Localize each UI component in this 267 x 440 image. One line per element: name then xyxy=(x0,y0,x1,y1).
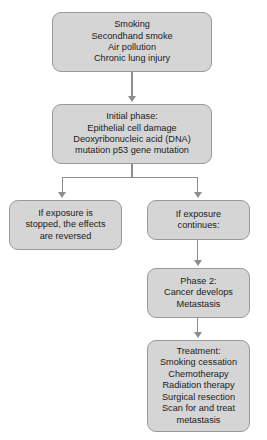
node-phase-two-line-1: Phase 2: xyxy=(180,276,216,287)
node-exposure-stopped-line-1: If exposure is xyxy=(38,208,93,219)
connector-causes-to-initial xyxy=(131,72,132,97)
node-initial-phase-line-2: Epithelial cell damage xyxy=(87,123,176,134)
connector-initial-stem xyxy=(131,164,132,178)
arrowhead-causes-to-initial xyxy=(128,96,136,102)
arrowhead-split-to-stopped xyxy=(58,192,66,198)
node-exposure-stopped: If exposure is stopped, the effects are … xyxy=(9,200,122,250)
node-treatment-line-7: metastasis xyxy=(177,415,221,426)
node-treatment-line-5: Surgical resection xyxy=(162,392,235,403)
node-initial-phase: Initial phase: Epithelial cell damage De… xyxy=(52,104,212,164)
node-causes-line-3: Air pollution xyxy=(108,42,156,53)
node-treatment-line-1: Treatment: xyxy=(176,346,220,357)
connector-split-to-continues xyxy=(197,177,198,193)
node-causes-line-1: Smoking xyxy=(114,19,150,30)
node-initial-phase-line-1: Initial phase: xyxy=(106,111,158,122)
node-causes-line-2: Secondhand smoke xyxy=(91,31,172,42)
node-exposure-continues-line-2: continues: xyxy=(178,220,220,231)
node-phase-two-line-2: Cancer develops xyxy=(164,287,233,298)
node-initial-phase-line-3: Deoxyribonucleic acid (DNA) xyxy=(73,134,190,145)
node-treatment: Treatment: Smoking cessation Chemotherap… xyxy=(147,340,250,432)
connector-phase2-to-treatment xyxy=(197,318,198,333)
node-exposure-continues: If exposure continues: xyxy=(147,200,250,240)
arrowhead-split-to-continues xyxy=(194,192,202,198)
node-exposure-stopped-line-3: are reversed xyxy=(40,231,92,242)
node-phase-two: Phase 2: Cancer develops Metastasis xyxy=(147,268,250,318)
node-treatment-line-2: Smoking cessation xyxy=(160,357,237,368)
node-causes-line-4: Chronic lung injury xyxy=(94,53,170,64)
node-treatment-line-3: Chemotherapy xyxy=(168,369,228,380)
connector-split-horizontal xyxy=(62,177,198,178)
node-treatment-line-4: Radiation therapy xyxy=(162,380,234,391)
node-initial-phase-line-4: mutation p53 gene mutation xyxy=(75,145,189,156)
arrowhead-continues-to-phase2 xyxy=(194,260,202,266)
connector-continues-to-phase2 xyxy=(197,240,198,261)
node-treatment-line-6: Scan for and treat xyxy=(162,403,235,414)
node-exposure-stopped-line-2: stopped, the effects xyxy=(25,219,105,230)
node-phase-two-line-3: Metastasis xyxy=(177,299,221,310)
flowchart: Smoking Secondhand smoke Air pollution C… xyxy=(0,0,267,440)
node-causes: Smoking Secondhand smoke Air pollution C… xyxy=(52,12,212,72)
connector-split-to-stopped xyxy=(62,177,63,193)
arrowhead-phase2-to-treatment xyxy=(194,332,202,338)
node-exposure-continues-line-1: If exposure xyxy=(176,209,221,220)
